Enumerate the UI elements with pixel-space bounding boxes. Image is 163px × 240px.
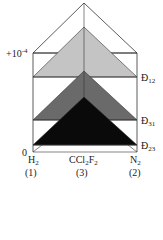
component-n2-index: (2)	[129, 168, 141, 178]
component-ccl2f2: CCl2F2	[69, 155, 98, 167]
label-d12: Đ12	[141, 73, 155, 85]
component-n2: N2	[130, 155, 141, 167]
label-d31: Đ31	[141, 116, 155, 128]
y-top-label: +10-4	[6, 48, 27, 59]
component-h2-index: (1)	[25, 168, 37, 178]
component-h2: H2	[28, 155, 39, 167]
layer-d23	[33, 97, 137, 145]
component-ccl2f2-index: (3)	[76, 168, 88, 178]
y-zero-label: 0	[22, 148, 27, 158]
label-d23: Đ23	[141, 141, 155, 153]
